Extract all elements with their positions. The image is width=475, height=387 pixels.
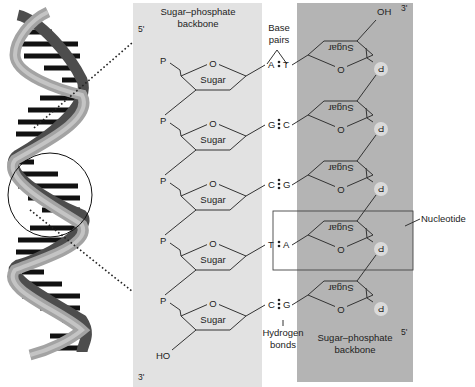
- nucleotide-label: Nucleotide: [421, 213, 466, 224]
- left-terminal-ho: HO: [156, 350, 170, 361]
- svg-text:Sugar: Sugar: [328, 163, 353, 174]
- svg-text:P: P: [378, 184, 384, 195]
- left-backbone-title: Sugar–phosphate: [160, 6, 235, 17]
- svg-text:Sugar: Sugar: [328, 283, 353, 294]
- svg-text:Sugar: Sugar: [200, 74, 225, 85]
- left-backbone-title-2: backbone: [177, 18, 218, 29]
- svg-text:O: O: [209, 58, 216, 69]
- svg-text:Sugar: Sugar: [328, 223, 353, 234]
- svg-text:T: T: [268, 239, 274, 250]
- left-3prime-label: 3': [138, 372, 145, 382]
- svg-text:C: C: [268, 179, 275, 190]
- svg-text:C: C: [268, 299, 275, 310]
- hydrogen-bonds-label-2: bonds: [270, 339, 296, 350]
- svg-text:P: P: [378, 244, 384, 255]
- svg-text:C: C: [283, 119, 290, 130]
- svg-text:P: P: [378, 64, 384, 75]
- right-backbone-panel: [297, 3, 413, 382]
- base-pairs-label-2: pairs: [269, 34, 290, 45]
- svg-text:Sugar: Sugar: [200, 314, 225, 325]
- svg-text:O: O: [209, 238, 216, 249]
- svg-text:O: O: [209, 118, 216, 129]
- svg-text:Sugar: Sugar: [200, 194, 225, 205]
- double-helix-illustration: [13, 12, 87, 355]
- svg-text:O: O: [209, 178, 216, 189]
- svg-text:P: P: [160, 235, 166, 246]
- svg-text:A: A: [268, 59, 275, 70]
- svg-text:O: O: [337, 304, 344, 315]
- svg-text:O: O: [209, 298, 216, 309]
- right-backbone-title-2: backbone: [334, 344, 375, 355]
- svg-text:O: O: [337, 244, 344, 255]
- left-5prime-label: 5': [138, 24, 145, 34]
- svg-text:P: P: [160, 295, 166, 306]
- svg-text:P: P: [160, 175, 166, 186]
- svg-text:A: A: [283, 239, 290, 250]
- right-terminal-oh: OH: [377, 6, 391, 17]
- svg-text:Sugar: Sugar: [200, 134, 225, 145]
- svg-text:P: P: [160, 115, 166, 126]
- right-backbone-title: Sugar–phosphate: [317, 332, 392, 343]
- svg-text:P: P: [160, 55, 166, 66]
- base-pairs-label: Base: [268, 22, 290, 33]
- svg-text:T: T: [283, 59, 289, 70]
- svg-text:O: O: [337, 64, 344, 75]
- hydrogen-bonds-label: Hydrogen: [262, 327, 303, 338]
- svg-text:G: G: [268, 119, 275, 130]
- svg-text:Sugar: Sugar: [328, 43, 353, 54]
- svg-text:Sugar: Sugar: [200, 254, 225, 265]
- svg-text:O: O: [337, 124, 344, 135]
- right-3prime-label: 3': [401, 3, 408, 13]
- svg-text:P: P: [378, 124, 384, 135]
- dna-structure-diagram: Sugar–phosphate backbone 5' 3' HO OH 3' …: [0, 0, 475, 387]
- svg-text:P: P: [378, 304, 384, 315]
- svg-text:O: O: [337, 184, 344, 195]
- right-5prime-label: 5': [401, 327, 408, 337]
- svg-text:G: G: [283, 179, 290, 190]
- svg-text:G: G: [283, 299, 290, 310]
- svg-text:Sugar: Sugar: [328, 103, 353, 114]
